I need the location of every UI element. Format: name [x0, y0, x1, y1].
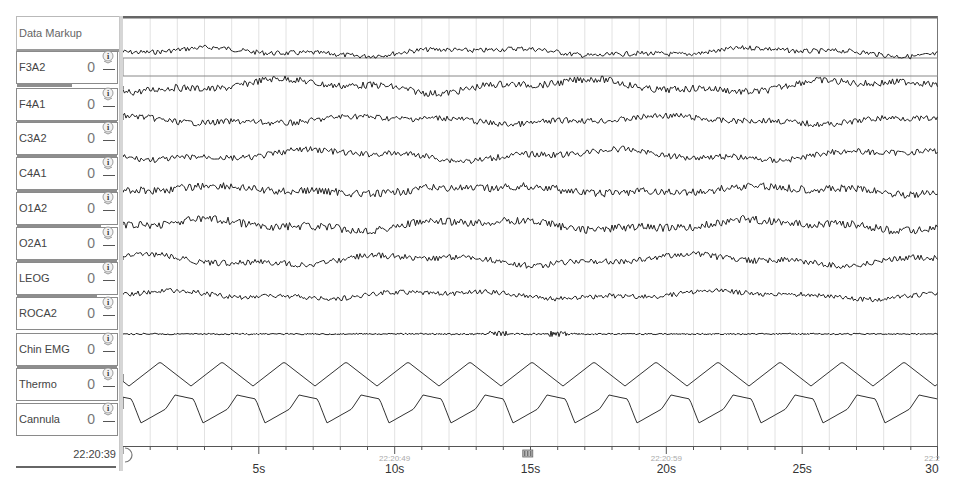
channel-label-c3a2[interactable]: C3A20i	[16, 122, 118, 155]
channel-label-chin-emg[interactable]: Chin EMG0i	[16, 333, 118, 366]
channel-name: Cannula	[19, 413, 60, 425]
info-icon[interactable]: i	[101, 367, 115, 381]
channel-name: ROCA2	[19, 307, 57, 319]
data-markup-label: Data Markup	[19, 27, 82, 39]
info-icon[interactable]: i	[101, 87, 115, 101]
time-tick-label: 30	[925, 462, 938, 476]
channel-label-f3a2[interactable]: F3A20i	[16, 51, 118, 84]
info-icon[interactable]: i	[101, 332, 115, 346]
time-tick-label: 10s	[385, 462, 404, 476]
channel-name: F4A1	[19, 98, 45, 110]
clock-time-label: 22:20:49	[379, 454, 410, 463]
channel-offset-value: 0	[87, 165, 95, 181]
info-icon[interactable]: i	[101, 226, 115, 240]
baseline-dash	[103, 351, 115, 352]
time-tick-label: 5s	[252, 462, 265, 476]
channel-offset-value: 0	[87, 96, 95, 112]
baseline-dash	[103, 175, 115, 176]
channel-label-roca2[interactable]: ROCA20i	[16, 297, 118, 330]
info-icon[interactable]: i	[101, 191, 115, 205]
channel-label-f4a1[interactable]: F4A10i	[16, 88, 118, 121]
baseline-dash	[103, 315, 115, 316]
baseline-dash	[103, 140, 115, 141]
info-icon[interactable]: i	[101, 296, 115, 310]
channel-name: O2A1	[19, 237, 47, 249]
baseline-dash	[103, 69, 115, 70]
clock-time-label: 22:2	[924, 454, 940, 463]
data-markup-header: Data Markup	[16, 16, 120, 52]
channel-label-o2a1[interactable]: O2A10i	[16, 227, 118, 260]
time-tick-label: 20s	[657, 462, 676, 476]
channel-name: F3A2	[19, 61, 45, 73]
channel-offset-value: 0	[87, 411, 95, 427]
info-icon[interactable]: i	[101, 50, 115, 64]
channel-offset-value: 0	[87, 305, 95, 321]
start-time-label: 22:20:39	[73, 448, 116, 460]
channel-label-cannula[interactable]: Cannula0i	[16, 403, 118, 436]
channel-label-leog[interactable]: LEOG0i	[16, 262, 118, 295]
channel-label-thermo[interactable]: Thermo0i	[16, 368, 118, 401]
channel-offset-value: 0	[87, 376, 95, 392]
baseline-dash	[103, 386, 115, 387]
channel-name: Thermo	[19, 378, 57, 390]
channel-name: O1A2	[19, 202, 47, 214]
channel-name: C3A2	[19, 132, 47, 144]
channel-label-o1a2[interactable]: O1A20i	[16, 192, 118, 225]
channel-offset-value: 0	[87, 235, 95, 251]
channel-offset-value: 0	[87, 270, 95, 286]
start-time: 22:20:39	[16, 448, 116, 468]
channel-offset-value: 0	[87, 130, 95, 146]
baseline-dash	[103, 421, 115, 422]
info-icon[interactable]: i	[101, 156, 115, 170]
clock-time-label: 22:20:59	[651, 454, 682, 463]
channel-level-bar	[17, 83, 72, 87]
channel-offset-value: 0	[87, 200, 95, 216]
channel-label-c4a1[interactable]: C4A10i	[16, 157, 118, 190]
time-tick-label: 15s	[521, 462, 540, 476]
event-marker-icon	[523, 450, 533, 457]
channel-name: LEOG	[19, 272, 50, 284]
info-icon[interactable]: i	[101, 261, 115, 275]
channel-name: C4A1	[19, 167, 47, 179]
time-axis[interactable]: 5s10s22:20:4915s20s22:20:5925s3022:2	[123, 446, 938, 487]
info-icon[interactable]: i	[101, 402, 115, 416]
info-icon[interactable]: i	[101, 121, 115, 135]
signal-chart[interactable]	[123, 16, 938, 446]
channel-name: Chin EMG	[19, 343, 70, 355]
baseline-dash	[103, 280, 115, 281]
baseline-dash	[103, 210, 115, 211]
baseline-dash	[103, 106, 115, 107]
time-tick-label: 25s	[792, 462, 811, 476]
baseline-dash	[103, 245, 115, 246]
channel-offset-value: 0	[87, 59, 95, 75]
channel-offset-value: 0	[87, 341, 95, 357]
